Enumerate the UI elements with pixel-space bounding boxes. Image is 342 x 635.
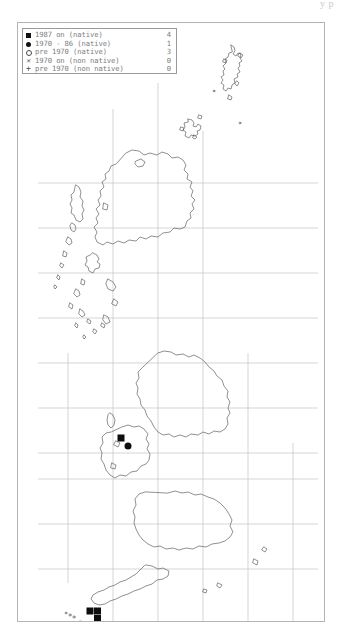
- map-canvas: [18, 23, 324, 621]
- open-circle-icon: [26, 48, 35, 57]
- coastline-outlines: [54, 45, 267, 621]
- legend-label: pre 1970 (non native): [35, 65, 155, 74]
- southern-england-outline: [133, 491, 233, 550]
- cornwall-devon-outline: [91, 565, 169, 605]
- legend-row: + pre 1970 (non native) 0: [26, 65, 173, 74]
- skye-outline: [85, 253, 100, 273]
- data-point-circle: [125, 443, 132, 450]
- filled-circle-icon: [26, 40, 35, 49]
- data-point-square: [94, 608, 101, 615]
- data-point-square: [87, 608, 94, 615]
- distribution-map-frame: 1987 on (native) 4 1970 - 86 (native) 1 …: [17, 22, 325, 622]
- data-point-square: [94, 615, 101, 621]
- legend-count: 0: [155, 65, 173, 74]
- filled-square-icon: [26, 31, 35, 40]
- data-point-square: [118, 435, 125, 442]
- orkney-outline: [183, 119, 201, 138]
- outer-hebrides-outline: [70, 185, 84, 222]
- isle-of-man-outline: [107, 413, 115, 428]
- scotland-mainland-outline: [94, 150, 195, 245]
- map-data-points: [87, 435, 132, 622]
- header-faint-text: y p: [320, 0, 334, 9]
- grid-lines: [38, 83, 318, 621]
- plus-icon: +: [26, 65, 35, 74]
- map-legend: 1987 on (native) 4 1970 - 86 (native) 1 …: [22, 28, 177, 74]
- header-strip: y p: [0, 0, 342, 14]
- wales-outline: [100, 425, 150, 478]
- northern-england-outline: [136, 351, 230, 437]
- shetland-outline: [221, 45, 242, 91]
